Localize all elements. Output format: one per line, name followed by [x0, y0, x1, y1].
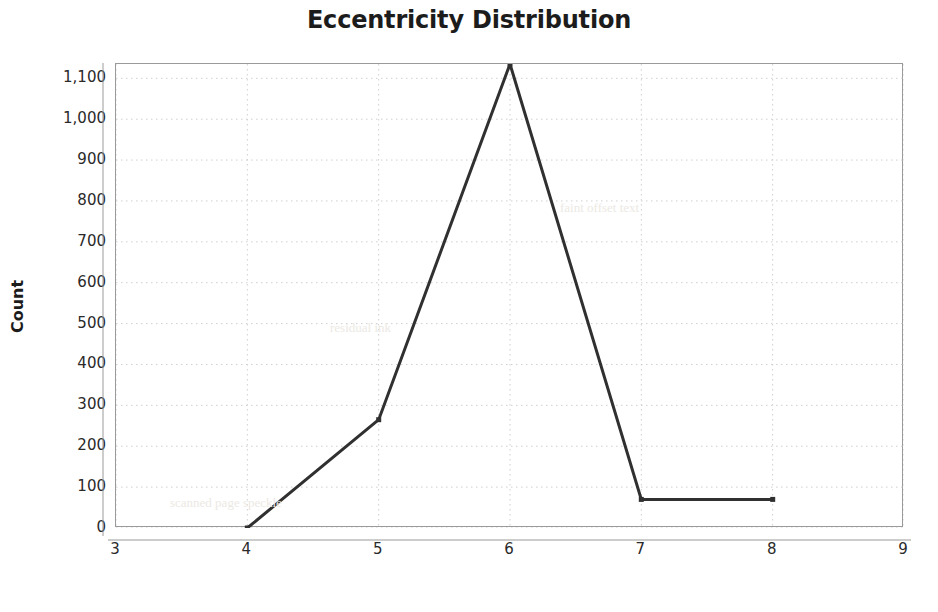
- chart-plot-svg: [116, 64, 904, 528]
- axis-tick-marks: [116, 78, 904, 528]
- chart-container: Eccentricity Distribution Count 01002003…: [0, 0, 938, 612]
- data-point-markers: [245, 64, 775, 528]
- data-point-marker: [508, 64, 513, 67]
- data-point-marker: [770, 497, 775, 502]
- data-point-marker: [639, 497, 644, 502]
- grid-lines: [116, 64, 904, 528]
- data-point-marker: [245, 526, 250, 529]
- data-point-marker: [376, 417, 381, 422]
- data-series-line: [247, 64, 772, 528]
- plot-area: [115, 63, 903, 527]
